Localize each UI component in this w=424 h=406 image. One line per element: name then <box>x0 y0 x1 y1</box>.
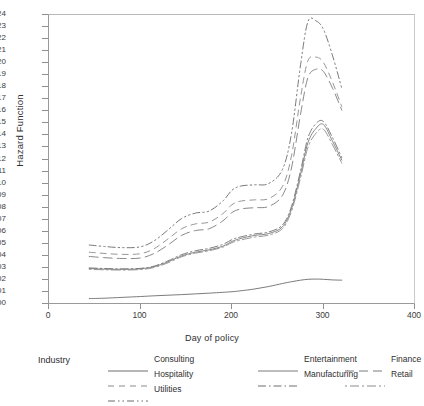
x-tick-label: 100 <box>110 310 170 320</box>
legend-item-label: Consulting <box>154 352 194 366</box>
y-tick-label: 0.011 <box>0 166 6 175</box>
series-lines <box>49 15 415 304</box>
x-tick-mark <box>140 304 141 309</box>
legend-title: Industry <box>38 355 70 365</box>
legend: Industry ConsultingHospitalityUtilitiesE… <box>0 352 424 399</box>
legend-line-swatch <box>108 373 148 375</box>
legend-line-swatch <box>108 388 148 390</box>
y-tick-label: 0.005 <box>0 238 6 247</box>
x-tick-mark <box>231 304 232 309</box>
y-tick-label: 0.004 <box>0 250 6 259</box>
legend-item-label: Utilities <box>154 382 181 396</box>
y-tick-label: 0.014 <box>0 129 6 138</box>
x-tick-label: 200 <box>201 310 261 320</box>
legend-line-swatch <box>345 373 385 375</box>
y-tick-label: 0.020 <box>0 57 6 66</box>
y-tick-label: 0.006 <box>0 226 6 235</box>
series-line <box>89 129 342 270</box>
x-tick-label: 0 <box>18 310 78 320</box>
legend-line-swatch <box>258 373 298 375</box>
legend-item-label: Retail <box>391 367 413 381</box>
legend-item-label: Hospitality <box>154 367 193 381</box>
y-tick-mark <box>42 255 48 256</box>
y-tick-label: 0.016 <box>0 105 6 114</box>
y-tick-mark <box>42 26 48 27</box>
x-tick-label: 400 <box>384 310 424 320</box>
y-tick-mark <box>42 231 48 232</box>
x-tick-label: 300 <box>293 310 353 320</box>
legend-item-label: Finance <box>391 352 421 366</box>
y-tick-label: 0.013 <box>0 141 6 150</box>
y-tick-label: 0.021 <box>0 45 6 54</box>
y-tick-label: 0.001 <box>0 286 6 295</box>
plot-area <box>48 14 415 304</box>
y-tick-label: 0.008 <box>0 202 6 211</box>
y-tick-mark <box>42 86 48 87</box>
y-tick-label: 0.023 <box>0 21 6 30</box>
y-tick-label: 0.009 <box>0 190 6 199</box>
y-tick-mark <box>42 279 48 280</box>
x-tick-mark <box>48 304 49 309</box>
y-tick-mark <box>42 159 48 160</box>
y-tick-mark <box>42 134 48 135</box>
y-tick-label: 0.015 <box>0 117 6 126</box>
y-tick-mark <box>42 122 48 123</box>
legend-line-swatch <box>108 358 148 360</box>
y-tick-mark <box>42 207 48 208</box>
y-tick-mark <box>42 267 48 268</box>
y-tick-label: 0.012 <box>0 154 6 163</box>
y-tick-label: 0.000 <box>0 298 6 307</box>
y-tick-label: 0.010 <box>0 178 6 187</box>
x-tick-mark <box>323 304 324 309</box>
series-line <box>89 18 342 248</box>
y-tick-mark <box>42 110 48 111</box>
y-tick-mark <box>42 183 48 184</box>
y-axis-title: Hazard Function <box>14 71 25 191</box>
y-tick-mark <box>42 291 48 292</box>
y-tick-mark <box>42 38 48 39</box>
y-tick-label: 0.003 <box>0 262 6 271</box>
y-tick-label: 0.024 <box>0 9 6 18</box>
y-tick-label: 0.017 <box>0 93 6 102</box>
y-tick-mark <box>42 14 48 15</box>
y-tick-label: 0.018 <box>0 81 6 90</box>
series-line <box>89 120 342 268</box>
y-tick-mark <box>42 195 48 196</box>
y-tick-label: 0.002 <box>0 274 6 283</box>
x-axis-title: Day of policy <box>0 333 424 343</box>
y-tick-mark <box>42 146 48 147</box>
y-tick-label: 0.019 <box>0 69 6 78</box>
y-tick-mark <box>42 50 48 51</box>
y-tick-mark <box>42 98 48 99</box>
y-tick-label: 0.022 <box>0 33 6 42</box>
y-tick-label: 0.007 <box>0 214 6 223</box>
y-tick-mark <box>42 243 48 244</box>
series-line <box>89 279 342 299</box>
y-tick-mark <box>42 74 48 75</box>
y-tick-mark <box>42 219 48 220</box>
y-tick-mark <box>42 62 48 63</box>
legend-line-swatch <box>345 358 385 360</box>
legend-line-swatch <box>258 358 298 360</box>
y-tick-mark <box>42 171 48 172</box>
x-tick-mark <box>414 304 415 309</box>
